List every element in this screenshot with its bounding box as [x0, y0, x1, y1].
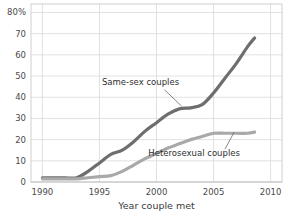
x-axis-tick-labels: 19901995200020052010 [32, 187, 282, 197]
data-series-lines [42, 38, 254, 179]
y-tick-label-60: 60 [15, 50, 26, 60]
y-tick-label-20: 20 [15, 135, 26, 145]
y-tick-label-30: 30 [15, 113, 26, 123]
x-tick-label-2010: 2010 [260, 187, 282, 197]
y-tick-label-10: 10 [15, 156, 26, 166]
y-tick-label-40: 40 [15, 92, 26, 102]
annotation-leader-line [164, 90, 181, 106]
annotation-label-same-sex-couples: Same-sex couples [102, 77, 180, 87]
annotation-label-heterosexual-couples: Heterosexual couples [148, 148, 240, 158]
y-tick-label-80%: 80% [7, 7, 26, 17]
x-tick-label-2000: 2000 [146, 187, 168, 197]
y-tick-label-70: 70 [15, 29, 26, 39]
line-chart-canvas: 01020304050607080% 19901995200020052010 … [0, 0, 288, 216]
y-tick-label-0: 0 [21, 177, 26, 187]
y-axis-tick-labels: 01020304050607080% [7, 7, 26, 187]
x-tick-label-2005: 2005 [203, 187, 225, 197]
x-axis-title: Year couple met [117, 200, 195, 211]
y-tick-label-50: 50 [15, 71, 26, 81]
x-tick-label-1990: 1990 [32, 187, 54, 197]
chart-figure: 01020304050607080% 19901995200020052010 … [0, 0, 288, 216]
x-tick-label-1995: 1995 [89, 187, 111, 197]
